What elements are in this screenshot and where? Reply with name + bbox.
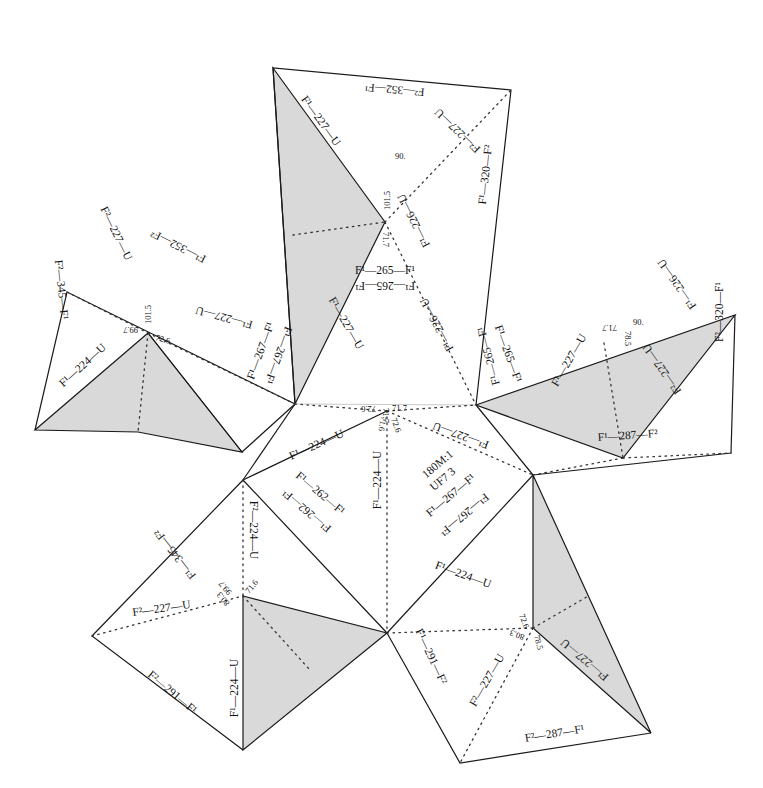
label-bl-shade-edge: F¹—224—U	[228, 658, 240, 717]
label-center-top-b: F¹—265—F¹	[354, 280, 414, 292]
angle-br-2: 80.3	[508, 628, 525, 642]
label-right-right-edge: F²—320—F¹	[713, 281, 725, 341]
label-inner-fold-c: F¹—227—U	[430, 420, 490, 451]
angle-center-4: 71.6	[376, 416, 388, 432]
label-center-top-a: F¹—265—F¹	[355, 264, 415, 276]
label-bl-edge-low: F²—291—F¹	[146, 668, 200, 716]
label-left-left-edge: F²—345—F¹	[53, 259, 71, 320]
label-inner-bottom-edge: F¹—224—U	[287, 427, 346, 462]
label-left-fold-up: F²—227—U	[98, 204, 135, 262]
left-shaded-face	[35, 333, 242, 452]
label-bl-fold-left: F²—227—U	[132, 598, 192, 618]
label-br-bottom-edge: F²—287—F¹	[524, 722, 586, 743]
inner-left-edge	[242, 404, 295, 452]
right-fold-b	[623, 453, 731, 458]
angle-top-3: 71.7	[381, 232, 391, 247]
lower-mid-right-edge	[387, 475, 533, 633]
label-inner-fold-b: F¹—226—U	[417, 296, 455, 354]
bottom-left-quad-edge	[92, 480, 243, 750]
angle-right-3: 78.5	[623, 331, 633, 346]
label-top-fold-down: F¹—226—U	[395, 191, 433, 249]
angle-center-5: 72.6	[389, 416, 403, 433]
angle-left-2: 101.5	[143, 305, 153, 324]
inner-fold-c	[387, 411, 533, 475]
angle-top-1: 101.5	[382, 191, 392, 210]
label-left-fold-right: F¹—227—U	[194, 304, 254, 331]
label-bl-edge-up: F¹—345—F²	[151, 527, 198, 582]
label-br-edge-left: F¹—291—F²	[414, 627, 450, 687]
angle-left-1: 99.7	[123, 325, 138, 335]
label-lower-mid-fold: F¹—224—U	[371, 450, 383, 509]
inner-left-edge-2	[243, 404, 295, 480]
crystal-net-diagram: F²—352—F¹ F¹—227—U F²—227—U F¹—320—F² F¹…	[0, 0, 763, 788]
label-br-fold-a: F¹—224—U	[434, 559, 494, 590]
angle-br-1: 72.6	[517, 612, 531, 629]
angle-bl-2: 71.6	[243, 577, 260, 595]
label-bl-fold-up: F²—224—U	[248, 501, 260, 560]
bottom-right-shaded-face	[533, 475, 651, 733]
label-top-quad-top: F²—352—F¹	[364, 81, 425, 98]
angle-top-2: 90.	[395, 151, 406, 161]
label-right-shade-edge: F¹—226—U	[655, 256, 699, 311]
label-br-fold-b: F²—227—U	[467, 651, 507, 708]
angle-right-2: 90.	[633, 317, 644, 327]
label-left-top-edge: F¹—352—F²	[148, 227, 207, 265]
label-top-fold-right: F²—227—U	[432, 106, 483, 156]
center-top-edge	[295, 404, 476, 405]
angle-center-2: 71.7	[392, 403, 407, 413]
angle-center-3: 72.6	[361, 404, 376, 414]
angle-right-1: 71.7	[602, 323, 617, 333]
top-shaded-face	[273, 68, 385, 404]
label-top-right-edge: F¹—320—F²	[476, 144, 494, 205]
